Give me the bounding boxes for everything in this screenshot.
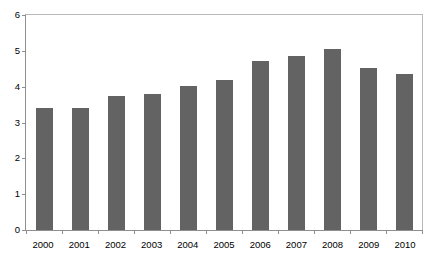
x-axis-label-2006: 2006 bbox=[250, 239, 271, 250]
bar-2009[interactable] bbox=[360, 68, 377, 230]
x-axis: 2000 2001 2002 2003 2004 2005 2006 2007 … bbox=[25, 234, 423, 252]
x-tick-wrap: 2000 bbox=[25, 234, 61, 252]
x-axis-label-2010: 2010 bbox=[394, 239, 415, 250]
x-axis-label-2002: 2002 bbox=[105, 239, 126, 250]
y-axis-label-1: 1 bbox=[15, 189, 26, 199]
bar-2002[interactable] bbox=[108, 96, 125, 230]
bar-slot bbox=[98, 15, 134, 230]
bar-slot bbox=[134, 15, 170, 230]
x-tick-wrap: 2006 bbox=[242, 234, 278, 252]
bar-slot bbox=[242, 15, 278, 230]
bar-2004[interactable] bbox=[180, 86, 197, 230]
bar-slot bbox=[314, 15, 350, 230]
plot-area: 6 5 4 3 2 1 0 bbox=[25, 14, 423, 231]
y-axis-label-2: 2 bbox=[15, 154, 26, 164]
x-axis-label-2009: 2009 bbox=[358, 239, 379, 250]
bar-2001[interactable] bbox=[72, 108, 89, 230]
x-tick-wrap: 2010 bbox=[387, 234, 423, 252]
bar-slot bbox=[278, 15, 314, 230]
bar-2005[interactable] bbox=[216, 80, 233, 231]
x-axis-label-2000: 2000 bbox=[33, 239, 54, 250]
bar-2006[interactable] bbox=[252, 61, 269, 230]
x-axis-label-2005: 2005 bbox=[213, 239, 234, 250]
y-axis-label-5: 5 bbox=[15, 46, 26, 56]
y-axis-label-4: 4 bbox=[15, 82, 26, 92]
bar-2007[interactable] bbox=[288, 56, 305, 230]
x-tick-wrap: 2003 bbox=[134, 234, 170, 252]
bar-chart: 6 5 4 3 2 1 0 2000 2001 bbox=[0, 0, 438, 265]
x-tick-wrap: 2008 bbox=[315, 234, 351, 252]
bar-slot bbox=[350, 15, 386, 230]
x-tick-wrap: 2007 bbox=[278, 234, 314, 252]
x-tick-wrap: 2005 bbox=[206, 234, 242, 252]
bar-slot bbox=[62, 15, 98, 230]
x-tick-wrap: 2002 bbox=[97, 234, 133, 252]
x-tick-wrap: 2004 bbox=[170, 234, 206, 252]
x-axis-label-2008: 2008 bbox=[322, 239, 343, 250]
bar-slot bbox=[386, 15, 422, 230]
bar-2008[interactable] bbox=[324, 49, 341, 230]
bar-2000[interactable] bbox=[36, 108, 53, 230]
bar-2003[interactable] bbox=[144, 94, 161, 230]
x-axis-label-2003: 2003 bbox=[141, 239, 162, 250]
x-tick-wrap: 2009 bbox=[351, 234, 387, 252]
x-axis-label-2001: 2001 bbox=[69, 239, 90, 250]
x-axis-label-2007: 2007 bbox=[286, 239, 307, 250]
bar-slot bbox=[170, 15, 206, 230]
bar-group bbox=[26, 15, 422, 230]
x-tick-wrap: 2001 bbox=[61, 234, 97, 252]
bar-slot bbox=[26, 15, 62, 230]
y-axis-label-3: 3 bbox=[15, 118, 26, 128]
x-axis-label-2004: 2004 bbox=[177, 239, 198, 250]
bar-2010[interactable] bbox=[396, 74, 413, 230]
y-axis-label-6: 6 bbox=[15, 10, 26, 20]
bar-slot bbox=[206, 15, 242, 230]
